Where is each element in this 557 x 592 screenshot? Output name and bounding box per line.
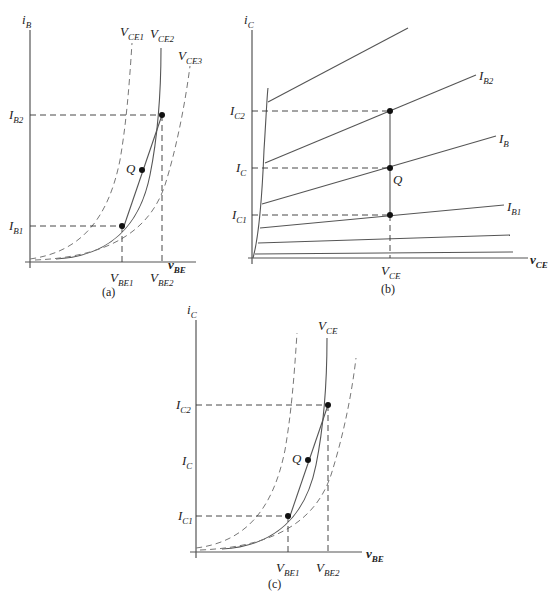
x-axis-label-b: vCE: [530, 252, 548, 270]
tick-ic2-c: IC2: [175, 397, 191, 415]
label-ib2: IB2: [478, 68, 494, 86]
tick-ic-c: IC: [181, 453, 193, 471]
point-lower-b: [387, 212, 393, 218]
point-upper-a: [159, 112, 165, 118]
tick-vce: VCE: [381, 263, 401, 281]
curve-top: [268, 28, 408, 102]
y-axis-label-c: iC: [187, 302, 198, 320]
point-q-c: [305, 457, 311, 463]
curve-dashed-right-c: [200, 358, 356, 550]
tick-ic2: IC2: [229, 103, 245, 121]
y-axis-label-a: iB: [22, 12, 32, 30]
tick-ib2: IB2: [8, 107, 24, 125]
caption-b: (b): [381, 282, 395, 296]
caption-c: (c): [268, 577, 281, 591]
curve-ib2: [265, 75, 476, 163]
label-ib1: IB1: [506, 199, 521, 217]
tick-vbe1-c: VBE1: [276, 560, 299, 578]
curve-vce1: [30, 43, 132, 259]
caption-a: (a): [102, 285, 115, 299]
curve-ib: [262, 136, 496, 204]
tick-vbe2-c: VBE2: [316, 560, 340, 578]
q-label-c: Q: [292, 451, 302, 466]
figure-canvas: iB vBE Q VCE1 VCE2 VCE3 IB2 IB1 VBE1 VBE…: [0, 0, 557, 592]
curve-low1: [258, 235, 510, 243]
curve-vce2: [56, 48, 161, 259]
q-label-b: Q: [393, 172, 403, 187]
point-q-b: [387, 165, 393, 171]
tick-vbe2: VBE2: [150, 270, 174, 288]
panel-c: iC vBE Q VCE IC2 IC IC1 VBE1 VBE2 (c): [175, 302, 384, 591]
curve-vce-c: [222, 338, 327, 549]
point-q-a: [139, 167, 145, 173]
saturation-curve: [253, 88, 268, 258]
x-axis-label-c: vBE: [366, 546, 384, 564]
point-upper-c: [325, 402, 331, 408]
tick-ic1-c: IC1: [177, 508, 193, 526]
label-vce2: VCE2: [150, 26, 174, 44]
x-axis-label-a: vBE: [168, 257, 186, 275]
y-axis-label-b: iC: [244, 12, 255, 30]
label-vce-c: VCE: [318, 318, 338, 336]
point-upper-b: [387, 108, 393, 114]
label-ib: IB: [498, 131, 509, 149]
curve-vce3: [35, 66, 190, 260]
point-lower-c: [285, 513, 291, 519]
tick-ic1: IC1: [231, 207, 247, 225]
curve-low2: [255, 252, 513, 254]
q-label-a: Q: [126, 161, 136, 176]
label-vce1: VCE1: [120, 24, 144, 42]
panel-a: iB vBE Q VCE1 VCE2 VCE3 IB2 IB1 VBE1 VBE…: [8, 12, 202, 299]
point-lower-a: [119, 223, 125, 229]
label-vce3: VCE3: [178, 48, 202, 66]
tick-ic: IC: [235, 160, 247, 178]
panel-b: iC vCE Q IB2 IB IB1 IC2 IC IC1 VCE (b): [229, 12, 548, 296]
curve-ib1: [260, 205, 504, 228]
tick-ib1: IB1: [8, 218, 23, 236]
